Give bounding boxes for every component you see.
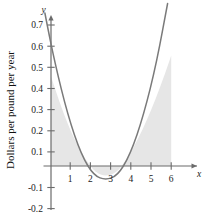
x-axis-variable-label: x (196, 169, 202, 179)
y-axis-title: Dollars per pound per year (4, 51, 16, 169)
x-axis-tick-labels: 1 2 3 4 5 6 (68, 174, 174, 184)
y-tick-label-0.7: 0.7 (31, 20, 43, 30)
y-axis-variable-label: y (40, 5, 46, 15)
x-tick-label-1: 1 (68, 174, 73, 184)
x-axis-arrow-icon (192, 163, 198, 168)
x-tick-label-3: 3 (108, 174, 113, 184)
y-tick-label-0.6: 0.6 (31, 42, 43, 52)
y-tick-label-0.3: 0.3 (31, 105, 43, 115)
y-tick-label-0.2: 0.2 (31, 126, 43, 136)
y-tick-label--0.1: -0.1 (28, 183, 43, 193)
x-tick-label-4: 4 (128, 174, 133, 184)
x-tick-label-5: 5 (149, 174, 154, 184)
chart-figure: y x 1 2 3 4 5 6 0.7 0.6 0.5 0.4 0.3 0.2 … (0, 0, 213, 224)
y-tick-label--0.2: -0.2 (28, 204, 43, 214)
x-tick-label-6: 6 (169, 174, 174, 184)
y-axis-arrow-icon (48, 15, 53, 21)
x-tick-label-2: 2 (88, 174, 93, 184)
y-tick-label-0.4: 0.4 (31, 84, 43, 94)
y-tick-label-0.1: 0.1 (31, 147, 43, 157)
y-axis-tick-labels: 0.7 0.6 0.5 0.4 0.3 0.2 0.1 -0.1 -0.2 (28, 20, 43, 214)
chart-svg: y x 1 2 3 4 5 6 0.7 0.6 0.5 0.4 0.3 0.2 … (0, 0, 213, 224)
y-tick-label-0.5: 0.5 (31, 63, 43, 73)
shaded-region-right (122, 55, 172, 166)
